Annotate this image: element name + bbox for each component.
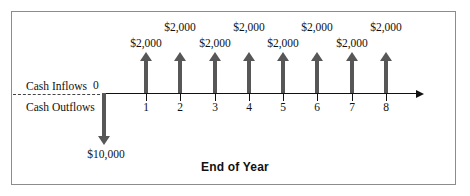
year-label-4: 4 [238,101,260,113]
year-label-5: 5 [272,101,294,113]
inflow-value-year-1: $2,000 [118,37,174,49]
year-label-1: 1 [135,101,157,113]
axis-tick-3 [215,94,216,101]
cash-inflows-label: Cash Inflows [26,80,87,92]
axis-tick-7 [352,94,353,101]
axis-tick-1 [146,94,147,101]
arrow-shaft [247,59,251,93]
outflow-value-year-0: $10,000 [76,148,136,160]
inflow-arrow-year-6 [311,52,323,93]
timeline-axis [103,93,418,94]
axis-tick-2 [180,94,181,101]
x-axis-caption: End of Year [0,160,470,174]
axis-arrowhead-icon [416,90,424,98]
year-label-8: 8 [375,101,397,113]
arrow-shaft [350,59,354,93]
cash-flow-diagram: Cash Inflows Cash Outflows 0 1 2 3 4 5 6… [0,0,470,196]
inflow-arrow-year-8 [380,52,392,93]
inflow-value-year-3: $2,000 [187,37,243,49]
inflow-value-year-7: $2,000 [324,37,380,49]
arrow-shaft [281,59,285,93]
outflow-arrow-year-0 [98,93,110,145]
inflow-value-year-4: $2,000 [221,21,277,33]
arrow-shaft [315,59,319,93]
inflow-arrow-year-7 [346,52,358,93]
arrow-shaft [178,59,182,93]
axis-tick-4 [249,94,250,101]
cash-outflows-label: Cash Outflows [26,101,95,113]
inflow-value-year-5: $2,000 [255,37,311,49]
arrow-shaft [213,59,217,93]
inflow-arrow-year-4 [243,52,255,93]
arrow-shaft [102,93,106,137]
inflow-outflow-divider [13,94,105,95]
inflow-value-year-6: $2,000 [289,21,345,33]
axis-tick-8 [386,94,387,101]
inflow-arrow-year-3 [209,52,221,93]
origin-label: 0 [93,79,99,91]
axis-tick-5 [283,94,284,101]
year-label-6: 6 [306,101,328,113]
inflow-arrow-year-5 [277,52,289,93]
arrow-shaft [384,59,388,93]
year-label-3: 3 [204,101,226,113]
year-label-7: 7 [341,101,363,113]
arrow-shaft [144,59,148,93]
arrow-down-head-icon [98,136,110,145]
year-label-2: 2 [169,101,191,113]
inflow-value-year-2: $2,000 [152,21,208,33]
inflow-arrow-year-2 [174,52,186,93]
inflow-arrow-year-1 [140,52,152,93]
inflow-value-year-8: $2,000 [358,21,414,33]
axis-tick-6 [317,94,318,101]
